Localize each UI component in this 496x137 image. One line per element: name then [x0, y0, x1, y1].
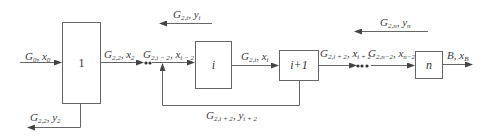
- label-main: G: [30, 111, 38, 123]
- label-sub: 2,n−2: [376, 53, 393, 61]
- label-sub: 2,n: [388, 22, 397, 30]
- label-main: G: [241, 50, 249, 62]
- label-sub: 2,i + 2: [328, 53, 347, 61]
- label-vsub: 2: [131, 54, 135, 62]
- x2-label: G2,2, x2: [104, 49, 135, 62]
- label-sub: 2,i − 2: [151, 54, 170, 62]
- ellipsis-dot: [356, 64, 359, 67]
- block-1-label: 1: [62, 57, 101, 69]
- label-vsub: B: [464, 55, 468, 63]
- yi2-label: G2,i + 2, yi + 2: [206, 110, 257, 123]
- label-vsub: i: [267, 56, 269, 64]
- label-vsub: i − 2: [180, 54, 194, 62]
- label-main: G: [25, 50, 33, 62]
- bottom-product-label: B, xB: [447, 50, 468, 63]
- xi-2-label: G2,i − 2, xi − 2: [143, 49, 194, 62]
- ellipsis-dot: [365, 64, 368, 67]
- label-vsub: i: [199, 14, 201, 22]
- block-n-label: n: [415, 59, 443, 71]
- feed-label: G0, x0: [25, 51, 50, 64]
- label-main: G: [380, 16, 388, 28]
- label-main: G: [104, 48, 112, 60]
- label-vsub: n: [407, 22, 411, 30]
- label-main: G: [143, 48, 151, 60]
- label-main: G: [206, 109, 214, 121]
- yn-label: G2,n, yn: [380, 17, 411, 30]
- y2-label: G2,2, y2: [30, 112, 61, 125]
- label-sub: 2,2: [38, 117, 47, 125]
- ellipsis-dot: [360, 64, 363, 67]
- label-main: G: [368, 47, 376, 59]
- label-sub: 2,i + 2: [214, 115, 233, 123]
- xi-label: G2,i, xi: [241, 51, 269, 64]
- yi-label: G2,i, yi: [173, 9, 201, 22]
- xn-2-label: G2,n−2, xn−2: [368, 48, 415, 61]
- label-vsub: i + 2: [243, 115, 257, 123]
- label-vsub: n−2: [403, 53, 415, 61]
- label-main: B: [447, 49, 454, 61]
- block-i-label: i: [195, 59, 232, 71]
- label-vsub: 0: [47, 56, 51, 64]
- label-vsub: 2: [57, 117, 61, 125]
- label-main: G: [173, 8, 181, 20]
- xi2-label: G2,i + 2, xi + 2: [320, 48, 371, 61]
- label-sub: 2,2: [112, 54, 121, 62]
- block-i-plus-1-label: i+1: [279, 59, 319, 71]
- label-main: G: [320, 47, 328, 59]
